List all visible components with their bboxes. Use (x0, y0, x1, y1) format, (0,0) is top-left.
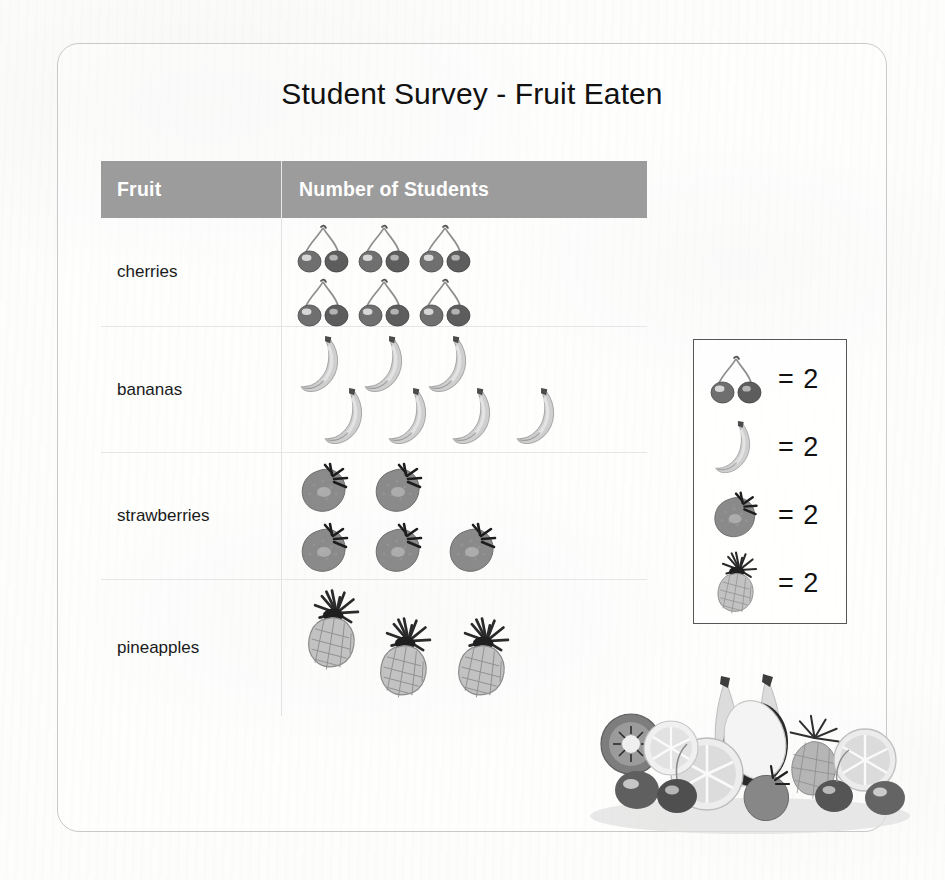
banana-icon (320, 385, 374, 449)
page-title: Student Survey - Fruit Eaten (58, 77, 886, 111)
table-row-pineapples: pineapples (101, 580, 647, 716)
table-row-cherries: cherries (101, 218, 647, 327)
legend-row-pineapples: = 2 (694, 550, 846, 616)
row-label-strawberries: strawberries (101, 453, 282, 579)
legend-row-bananas: = 2 (694, 415, 846, 481)
legend-value-pineapples: = 2 (778, 568, 819, 599)
cherries-icon (416, 224, 474, 274)
row-label-cherries: cherries (101, 218, 282, 326)
legend-value-strawberries: = 2 (778, 500, 819, 531)
banana-icon (448, 385, 502, 449)
worksheet-card: Student Survey - Fruit Eaten Fruit Numbe… (57, 43, 887, 832)
legend-row-cherries: = 2 (694, 347, 846, 413)
pineapple-icon (298, 586, 366, 674)
banana-icon (384, 385, 438, 449)
cherries-icon (694, 355, 778, 405)
pineapple-icon (370, 614, 438, 702)
cherries-icon (294, 224, 352, 274)
legend-key-box: = 2 = 2 = 2 = 2 (693, 339, 847, 624)
pineapple-icon (448, 614, 516, 702)
pictograph-table: Fruit Number of Students cherries (101, 161, 647, 716)
row-icons-pineapples (282, 580, 647, 716)
cherries-icon (355, 278, 413, 328)
legend-value-cherries: = 2 (778, 364, 819, 395)
table-header-row: Fruit Number of Students (101, 161, 647, 218)
strawberry-icon (296, 519, 354, 577)
pineapple-icon (694, 549, 778, 617)
row-icons-bananas (282, 327, 647, 452)
column-header-number-of-students: Number of Students (282, 161, 647, 218)
row-icons-strawberries (282, 453, 647, 579)
strawberry-icon (296, 459, 354, 517)
strawberry-icon (694, 488, 778, 542)
banana-icon (512, 385, 566, 449)
banana-icon (694, 418, 778, 478)
row-label-bananas: bananas (101, 327, 282, 452)
legend-value-bananas: = 2 (778, 432, 819, 463)
row-icons-cherries (282, 218, 647, 326)
cherries-icon (355, 224, 413, 274)
row-label-pineapples: pineapples (101, 580, 282, 716)
table-row-bananas: bananas (101, 327, 647, 453)
strawberry-icon (370, 459, 428, 517)
table-row-strawberries: strawberries (101, 453, 647, 580)
cherries-icon (416, 278, 474, 328)
column-header-fruit: Fruit (101, 161, 282, 218)
cherries-icon (294, 278, 352, 328)
strawberry-icon (370, 519, 428, 577)
legend-row-strawberries: = 2 (694, 482, 846, 548)
strawberry-icon (444, 519, 502, 577)
